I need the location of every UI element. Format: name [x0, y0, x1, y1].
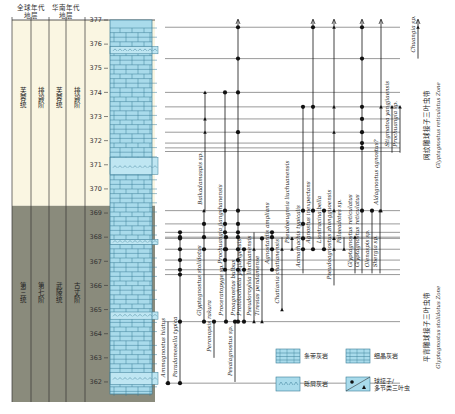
lithology-base	[110, 20, 152, 394]
taxon-name: Prochuangia jiangshanensis	[217, 184, 224, 265]
taxon-range: Acmarhachis typicalis	[295, 105, 305, 274]
legend-label: 细晶灰岩	[374, 352, 398, 360]
taxon-name: Glyptagnostus reticulatus	[354, 194, 361, 267]
taxon-ranges: Ammagnostus hiatusParadamesella typicaGl…	[160, 15, 420, 385]
axis-tick-label: 372	[90, 137, 102, 145]
lower-stratum-label: 古丈阶	[72, 281, 80, 304]
trilobite-dot-marker	[311, 25, 315, 29]
trilobite-triangle-marker	[416, 25, 420, 28]
taxon-name: Acmarhachis typicalis	[295, 205, 302, 268]
axis-tick-label: 373	[90, 113, 102, 121]
taxon-name: Agnostus inexpectans	[305, 181, 312, 244]
biozone: 网纹雕球接子三叶虫带Glyptagnostus reticulatus Zone	[422, 82, 442, 168]
taxon-range: Agnostardis amplians	[264, 202, 274, 272]
taxon-range: Glyptagnostus stolidotus	[196, 209, 206, 324]
axis-tick-label: 364	[90, 330, 102, 338]
trilobite-dot-marker	[370, 209, 374, 213]
axis-tick-label: 374	[90, 89, 102, 97]
axis-tick-label: 362	[90, 378, 102, 386]
taxon-name: Chatiania chatianensis	[274, 239, 280, 304]
lithology-column	[110, 20, 158, 396]
taxon-range: Glyptagnostus reticulatus	[354, 19, 364, 273]
trilobite-dot-marker	[202, 247, 206, 251]
trilobite-dot-marker	[178, 247, 182, 251]
trilobite-dot-marker	[178, 258, 182, 262]
lower-stratum-label: 第七阶	[36, 281, 44, 304]
trilobite-dot-marker	[178, 235, 182, 239]
biozone: 平背雕球接子三叶虫带Glyptagnostus stolidotus Zone	[422, 286, 442, 369]
taxon-name: Proceratopyge sp.	[218, 264, 225, 317]
trilobite-dot-marker	[236, 320, 240, 324]
legend-label: 条带灰岩	[304, 352, 328, 360]
trilobite-dot-marker	[301, 247, 305, 251]
trilobite-dot-marker	[223, 90, 227, 94]
taxon-name: Pesaiagnostus sp.	[227, 325, 234, 377]
trilobite-dot-marker	[360, 209, 364, 213]
trilobite-dot-marker	[236, 130, 240, 134]
taxon-range: Pseudoeugreia liuchuanensis	[284, 160, 294, 250]
trilobite-dot-marker	[236, 235, 240, 239]
trilobite-dot-marker	[301, 105, 305, 109]
taxon-name: Paradamesella typica	[172, 317, 179, 379]
trilobite-dot-marker	[223, 209, 227, 213]
taxon-range: Pesaiagnostus sp.	[227, 320, 237, 382]
axis-tick-label: 376	[90, 40, 102, 48]
trilobite-dot-marker	[223, 247, 227, 251]
trilobite-dot-marker	[224, 235, 228, 239]
taxon-range: Pseudoagnostus zhongguoensis	[326, 19, 336, 285]
taxon-name: Palaeadotes sp.	[336, 199, 343, 244]
trilobite-dot-marker	[236, 209, 240, 213]
legend-item: 条带灰岩	[276, 349, 328, 363]
taxon-range: Prochuangia jiangshanensis	[217, 90, 227, 272]
taxon-range: Ammagnostus hiatus	[160, 318, 170, 386]
taxon-name: Glyptagnostus stolidotus	[196, 245, 203, 315]
axis-tick-label: 367	[90, 258, 102, 266]
trilobite-dot-marker	[360, 57, 364, 61]
global-strata-header-1: 全球年代	[17, 3, 45, 12]
trilobite-dot-marker	[236, 25, 240, 29]
trilobite-dot-marker	[178, 320, 182, 324]
axis-tick-label: 375	[90, 64, 102, 72]
taxon-range: Peronopsis rakura	[206, 300, 216, 358]
trilobite-dot-marker	[236, 222, 240, 226]
trilobite-dot-marker	[178, 230, 182, 234]
taxon-range: Palaeadotes sp.	[336, 199, 346, 251]
trilobite-dot-marker	[178, 381, 182, 385]
taxon-range: Chuangia sp.	[410, 15, 420, 58]
taxon-name: Olenaspis sp.	[364, 229, 371, 267]
calcirudite-bed	[110, 158, 158, 175]
taxon-name: Pseudoroylsia linchuanensis	[246, 235, 253, 316]
taxon-name: Protolochotia yuqiangensis	[236, 239, 243, 317]
trilobite-dot-marker	[311, 209, 315, 213]
axis-tick-label: 377	[90, 16, 102, 24]
biozone-cn: 平背雕球接子三叶虫带	[422, 292, 431, 362]
legend-item: 砾屑灰岩	[276, 377, 328, 391]
legend-label: 砾屑灰岩	[304, 380, 328, 388]
trilobite-dot-marker	[270, 235, 274, 239]
taxon-range: Shergia sp.	[372, 209, 382, 274]
upper-stratum-label: 芙蓉统	[18, 86, 26, 109]
trilobite-dot-marker	[270, 230, 274, 234]
axis-tick-label: 365	[90, 306, 102, 314]
taxon-range: Paradamesella typica	[172, 230, 182, 385]
trilobite-dot-marker	[223, 258, 227, 262]
taxon-range: Baikadamaspis sp.	[197, 91, 207, 211]
agnostid-dot-icon	[350, 380, 354, 384]
axis-tick-label: 363	[90, 354, 102, 362]
axis-tick-label: 371	[90, 161, 102, 169]
trilobite-dot-marker	[360, 105, 364, 109]
trilobite-dot-marker	[212, 320, 216, 324]
trilobite-dot-marker	[202, 222, 206, 226]
taxon-range: Chatiania chatianensis	[274, 237, 284, 311]
taxon-range: Agnostus inexpectans	[305, 19, 315, 251]
trilobite-dot-marker	[236, 230, 240, 234]
taxon-name: Peronopsis rakura	[206, 300, 213, 353]
trilobite-triangle-marker	[280, 308, 284, 311]
trilobite-dot-marker	[202, 235, 206, 239]
trilobite-dot-marker	[223, 222, 227, 226]
trilobite-dot-marker	[311, 105, 315, 109]
legend-swatch	[346, 349, 370, 363]
trilobite-dot-marker	[360, 146, 364, 150]
legend-label: 多节类三叶虫	[374, 384, 410, 392]
taxon-range: Aldagnostus agnostus?	[373, 19, 383, 212]
